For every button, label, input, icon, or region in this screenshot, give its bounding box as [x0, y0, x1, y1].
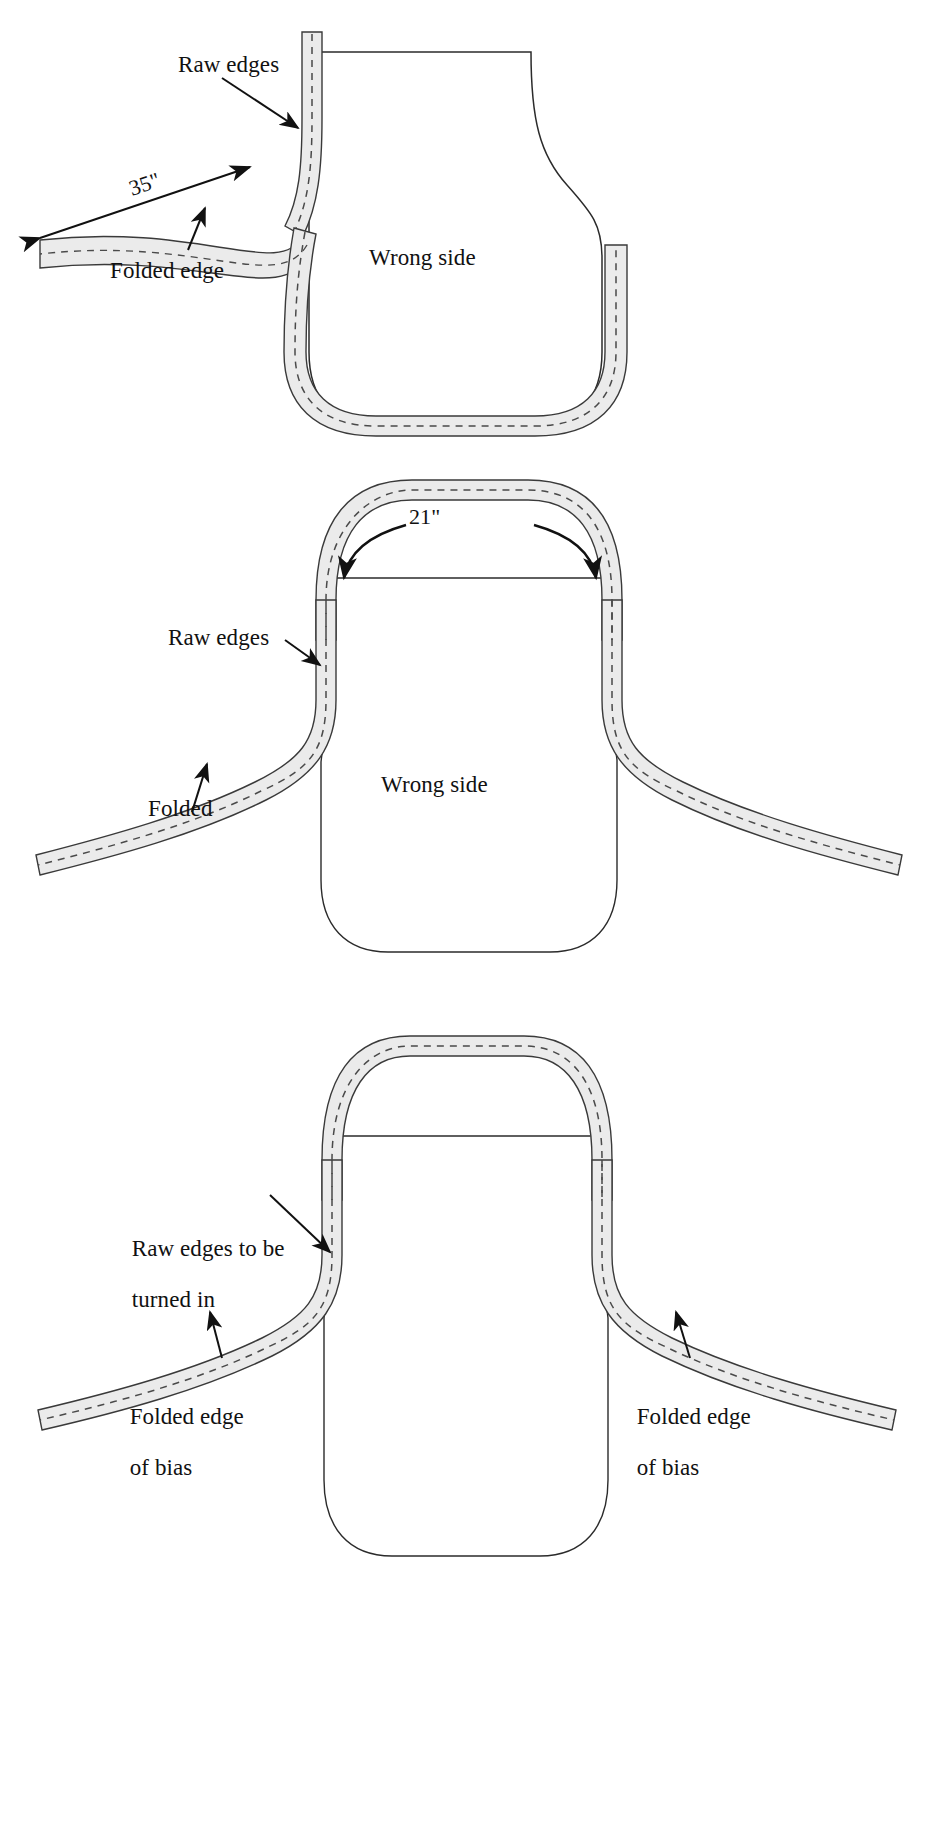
raw-edges-turned-in-label-3: Raw edges to be turned in: [120, 1210, 285, 1313]
folded-edge-bias-left-line-2: of bias: [130, 1455, 193, 1480]
folded-edge-bias-left-line-1: Folded edge: [130, 1404, 244, 1429]
folded-edge-bias-left-leader-3: [210, 1312, 222, 1358]
folded-edge-label-1: Folded edge: [110, 258, 224, 284]
raw-edges-label-2: Raw edges: [168, 625, 269, 651]
wrong-side-label-1: Wrong side: [369, 245, 476, 271]
raw-edges-turned-in-line-2: turned in: [132, 1287, 215, 1312]
panel-2-drawing: [36, 480, 902, 952]
apron-body-outline-3: [324, 1136, 608, 1556]
raw-edges-leader-1: [222, 78, 298, 128]
raw-edges-leader-2: [285, 640, 320, 665]
neck-dimension-arrow-right: [534, 525, 596, 578]
wrong-side-label-2: Wrong side: [381, 772, 488, 798]
panel-1-drawing: [40, 30, 627, 436]
bias-right-tie-2: [602, 600, 902, 875]
neck-dimension-arrow-left: [344, 525, 406, 578]
folded-edge-bias-right-line-2: of bias: [637, 1455, 700, 1480]
neck-dimension-label-2: 21": [409, 505, 440, 530]
folded-edge-bias-left-label-3: Folded edge of bias: [118, 1378, 244, 1481]
diagram-stage: Raw edges 35" Folded edge Wrong side 21"…: [0, 0, 936, 1833]
folded-edge-bias-right-line-1: Folded edge: [637, 1404, 751, 1429]
apron-body-outline-2: [321, 578, 617, 952]
folded-label-2: Folded: [148, 796, 213, 822]
apron-body-outline-1: [309, 52, 602, 426]
raw-edges-turned-in-line-1: Raw edges to be: [132, 1236, 285, 1261]
raw-edges-label-1: Raw edges: [178, 52, 279, 78]
folded-edge-bias-right-label-3: Folded edge of bias: [625, 1378, 751, 1481]
